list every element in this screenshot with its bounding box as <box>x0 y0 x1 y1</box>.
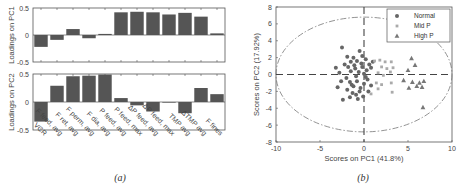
data-point-normal <box>358 89 362 93</box>
y-tick-label: 2 <box>268 54 272 61</box>
y-axis-label: Loadings on PC1 <box>7 6 16 64</box>
data-point-normal <box>352 63 356 67</box>
data-point-normal <box>357 70 361 74</box>
category-label: F fines <box>204 117 224 137</box>
data-point-mid-p <box>375 82 378 85</box>
data-point-mid-p <box>382 74 385 77</box>
data-point-normal <box>356 97 360 101</box>
y-tick-label: 0.5 <box>19 5 29 12</box>
legend-label: Mid P <box>414 22 431 29</box>
bar <box>34 35 47 47</box>
data-point-mid-p <box>391 91 394 94</box>
caption-a: (a) <box>114 172 126 184</box>
pca-scores-scatter: -10-5051086420-2-4-6-8NormalMid PHigh PS… <box>252 4 456 164</box>
bar <box>98 75 111 102</box>
data-point-normal <box>341 98 345 102</box>
data-point-mid-p <box>390 82 393 85</box>
y-tick-label: -8 <box>266 139 272 146</box>
data-point-mid-p <box>380 83 383 86</box>
bar <box>50 35 63 40</box>
bar <box>146 12 159 35</box>
data-point-normal <box>355 59 359 63</box>
bar <box>162 14 175 35</box>
data-point-normal <box>350 83 354 87</box>
data-point-normal <box>360 54 364 58</box>
data-point-normal <box>345 88 349 92</box>
bar <box>178 13 191 35</box>
data-point-normal <box>355 79 359 83</box>
bar <box>194 17 207 35</box>
data-point-normal <box>361 94 365 98</box>
x-tick-label: 5 <box>406 145 410 152</box>
data-point-normal <box>351 91 355 95</box>
bar <box>210 94 223 102</box>
legend-marker-normal <box>395 14 399 18</box>
bar <box>114 98 127 102</box>
caption-b: (b) <box>357 172 369 184</box>
bar <box>130 12 143 35</box>
bar <box>50 86 63 102</box>
y-tick-label: -0.5 <box>17 127 29 134</box>
bar <box>82 35 95 38</box>
data-point-normal <box>358 49 362 53</box>
pc1-loadings-chart: 0.50-0.5Loadings on PC1 <box>7 5 225 66</box>
data-point-mid-p <box>384 60 387 63</box>
y-tick-label: 0 <box>25 99 29 106</box>
bar <box>66 29 79 35</box>
data-point-mid-p <box>377 87 380 90</box>
bar <box>114 12 127 35</box>
data-point-normal <box>364 57 368 61</box>
data-point-normal <box>354 74 358 78</box>
data-point-normal <box>365 68 369 72</box>
figure: 0.50-0.5Loadings on PC1 VCRF feed, avgF … <box>0 0 458 186</box>
y-tick-label: -4 <box>266 105 272 112</box>
x-tick-label: 10 <box>448 145 456 152</box>
data-point-normal <box>369 66 373 70</box>
data-point-normal <box>349 69 353 73</box>
bar <box>82 76 95 102</box>
data-point-normal <box>367 62 371 66</box>
y-tick-label: -2 <box>266 88 272 95</box>
data-point-mid-p <box>380 66 383 69</box>
data-point-mid-p <box>385 67 388 70</box>
y-tick-label: 0 <box>25 32 29 39</box>
data-point-mid-p <box>370 93 373 96</box>
pc2-loadings-chart: VCRF feed, avgF ret, avgF perm, avgF dia… <box>7 71 225 138</box>
data-point-mid-p <box>389 71 392 74</box>
data-point-normal <box>358 86 362 90</box>
bar <box>66 76 79 102</box>
y-tick-label: 0 <box>268 71 272 78</box>
data-point-normal <box>364 75 368 79</box>
legend-label: High P <box>414 32 434 40</box>
data-point-normal <box>360 65 364 69</box>
data-point-normal <box>345 55 349 59</box>
data-point-normal <box>334 66 338 70</box>
data-point-normal <box>339 79 343 83</box>
x-tick-label: -5 <box>317 145 323 152</box>
y-tick-label: -0.5 <box>17 59 29 66</box>
data-point-normal <box>343 62 347 66</box>
data-point-normal <box>340 46 344 50</box>
bar <box>194 88 207 102</box>
data-point-normal <box>348 95 352 99</box>
data-point-mid-p <box>377 71 380 74</box>
data-point-normal <box>353 67 357 71</box>
data-point-normal <box>349 60 353 64</box>
legend-marker-mid-p <box>396 25 399 28</box>
legend: NormalMid PHigh P <box>387 9 450 42</box>
category-label: VCR <box>33 121 48 136</box>
x-tick-label: -10 <box>271 145 281 152</box>
data-point-normal <box>344 76 348 80</box>
y-tick-label: 0.5 <box>19 71 29 78</box>
x-axis-label: Scores on PC1 (41.8%) <box>325 154 404 163</box>
data-point-normal <box>351 56 355 60</box>
y-axis-label: Loadings on PC2 <box>7 73 16 131</box>
data-point-normal <box>369 83 373 87</box>
data-point-normal <box>354 93 358 97</box>
data-point-normal <box>336 85 340 89</box>
y-axis-label: Scores on PC2 (17.92%) <box>252 33 261 116</box>
data-point-normal <box>362 72 366 76</box>
data-point-normal <box>346 65 350 69</box>
data-point-normal <box>337 71 341 75</box>
y-tick-label: -6 <box>266 122 272 129</box>
